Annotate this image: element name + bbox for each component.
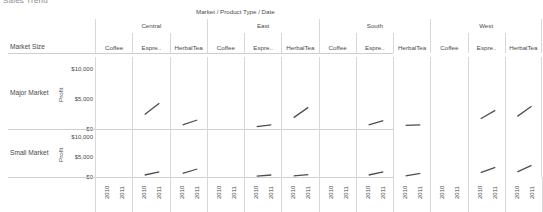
row-field-label: Market Size — [10, 43, 45, 50]
product-header-espre[interactable]: Espre.. — [468, 33, 505, 53]
x-tick: 2010 — [402, 186, 408, 199]
panel-east-coffee[interactable] — [207, 129, 244, 177]
panel-east-espre[interactable] — [244, 57, 281, 129]
panel-central-espre[interactable] — [132, 129, 169, 177]
x-tick: 2011 — [343, 186, 349, 199]
product-header-coffee[interactable]: Coffee — [207, 33, 244, 53]
panel-south-herbaltea[interactable] — [393, 57, 430, 129]
panel-west-coffee[interactable] — [430, 57, 467, 129]
panel-south-herbaltea[interactable] — [393, 129, 430, 177]
product-header-coffee[interactable]: Coffee — [95, 33, 132, 53]
panel-east-coffee[interactable] — [207, 57, 244, 129]
x-tick: 2010 — [253, 186, 259, 199]
panel-gridline — [244, 177, 245, 212]
panel-east-espre[interactable] — [244, 129, 281, 177]
panel-strip — [95, 57, 393, 129]
region-header-east[interactable]: East — [207, 19, 319, 33]
panel-south-coffee[interactable] — [319, 57, 356, 129]
product-header-espre[interactable]: Espre.. — [132, 33, 169, 53]
x-tick-group: 20102011 — [95, 177, 132, 212]
region-header-central[interactable]: Central — [95, 19, 207, 33]
x-tick-group: 20102011 — [430, 177, 467, 212]
panel-central-herbaltea[interactable] — [170, 129, 207, 177]
x-tick: 2011 — [492, 186, 498, 199]
panel-gridline — [319, 177, 320, 212]
panel-west-espre[interactable] — [468, 57, 505, 129]
product-header-row: CoffeeEspre..HerbalTeaCoffeeEspre..Herba… — [95, 33, 393, 53]
market-row-small: Small MarketProfit$10,000$5,000$0 — [0, 129, 393, 177]
header-underline — [8, 53, 393, 54]
x-tick: 2011 — [268, 186, 274, 199]
y-tick: $10,000 — [71, 134, 93, 140]
market-size-label-major[interactable]: Major Market — [10, 89, 48, 96]
panel-south-espre[interactable] — [356, 57, 393, 129]
panel-central-coffee[interactable] — [95, 57, 132, 129]
y-axis-tick-labels: $10,000$5,000$0 — [60, 129, 93, 177]
panel-gridline — [95, 177, 96, 212]
x-tick: 2010 — [104, 186, 110, 199]
x-tick: 2011 — [194, 186, 200, 199]
product-header-herbaltea[interactable]: HerbalTea — [170, 33, 207, 53]
panel-gridline — [505, 177, 506, 212]
panel-strip — [95, 129, 393, 177]
x-tick: 2011 — [454, 186, 460, 199]
x-tick-group: 20102011 — [132, 177, 169, 212]
x-tick-group: 20102011 — [356, 177, 393, 212]
panel-gridline — [356, 177, 357, 212]
x-tick-group: 20102011 — [207, 177, 244, 212]
panel-central-espre[interactable] — [132, 57, 169, 129]
x-tick: 2011 — [417, 186, 423, 199]
x-tick-group: 20102011 — [468, 177, 505, 212]
x-tick: 2010 — [216, 186, 222, 199]
y-axis-tick-labels: $10,000$5,000$0 — [60, 57, 93, 129]
x-tick-group: 20102011 — [244, 177, 281, 212]
product-header-coffee[interactable]: Coffee — [430, 33, 467, 53]
product-header-herbaltea[interactable]: HerbalTea — [505, 33, 542, 53]
panel-gridline — [132, 177, 133, 212]
x-tick: 2010 — [439, 186, 445, 199]
product-header-herbaltea[interactable]: HerbalTea — [281, 33, 318, 53]
panel-east-herbaltea[interactable] — [281, 57, 318, 129]
x-axis-ticks: 2010201120102011201020112010201120102011… — [95, 177, 393, 212]
panel-east-herbaltea[interactable] — [281, 129, 318, 177]
panel-west-herbaltea[interactable] — [505, 129, 542, 177]
panel-gridline — [468, 177, 469, 212]
panel-central-herbaltea[interactable] — [170, 57, 207, 129]
x-tick: 2011 — [231, 186, 237, 199]
x-tick: 2010 — [141, 186, 147, 199]
region-header-south[interactable]: South — [319, 19, 431, 33]
x-tick-group: 20102011 — [170, 177, 207, 212]
product-header-coffee[interactable]: Coffee — [319, 33, 356, 53]
x-tick: 2010 — [365, 186, 371, 199]
x-tick-group: 20102011 — [393, 177, 430, 212]
panel-south-coffee[interactable] — [319, 129, 356, 177]
panel-south-espre[interactable] — [356, 129, 393, 177]
panel-gridline — [170, 177, 171, 212]
x-tick-group: 20102011 — [505, 177, 542, 212]
x-tick: 2011 — [156, 186, 162, 199]
product-header-herbaltea[interactable]: HerbalTea — [393, 33, 430, 53]
y-tick: $5,000 — [75, 96, 93, 102]
x-tick: 2010 — [514, 186, 520, 199]
x-tick: 2010 — [477, 186, 483, 199]
panel-gridline — [207, 177, 208, 212]
x-tick: 2011 — [529, 186, 535, 199]
product-header-espre[interactable]: Espre.. — [356, 33, 393, 53]
panel-west-herbaltea[interactable] — [505, 57, 542, 129]
x-tick: 2011 — [305, 186, 311, 199]
x-tick: 2010 — [328, 186, 334, 199]
panel-west-coffee[interactable] — [430, 129, 467, 177]
panel-west-espre[interactable] — [468, 129, 505, 177]
region-header-row: CentralEastSouthWest — [95, 19, 393, 33]
product-header-espre[interactable]: Espre.. — [244, 33, 281, 53]
x-tick: 2010 — [290, 186, 296, 199]
y-tick: $10,000 — [71, 66, 93, 72]
market-row-major: Major MarketProfit$10,000$5,000$0 — [0, 57, 393, 129]
region-header-west[interactable]: West — [430, 19, 542, 33]
market-size-label-small[interactable]: Small Market — [10, 149, 48, 156]
panel-central-coffee[interactable] — [95, 129, 132, 177]
panel-gridline — [281, 177, 282, 212]
x-tick: 2010 — [179, 186, 185, 199]
